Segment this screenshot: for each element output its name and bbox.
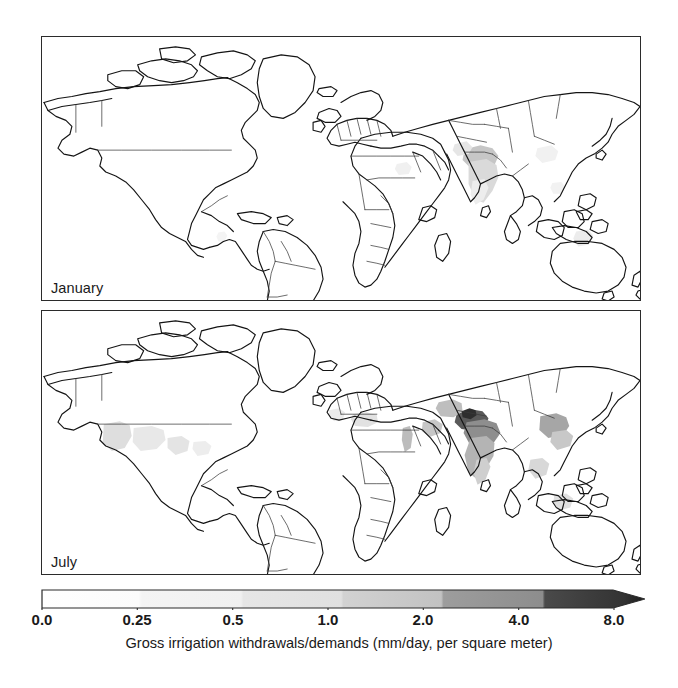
colorbar-tick-3: 1.0: [318, 612, 339, 627]
colorbar-body: [42, 590, 645, 608]
panel-label-january: January: [51, 281, 103, 296]
colorbar-caption: Gross irrigation withdrawals/demands (mm…: [0, 635, 678, 652]
colorbar-tick-0: 0.0: [32, 612, 53, 627]
colorbar-tick-4: 2.0: [413, 612, 434, 627]
map-panel-july: July: [41, 310, 641, 575]
colorbar-gradient-bar: [41, 588, 645, 610]
colorbar-tick-labels: 0.0 0.25 0.5 1.0 2.0 4.0 8.0: [0, 612, 678, 634]
map-panel-january: January: [41, 36, 641, 301]
colorbar-tick-5: 4.0: [509, 612, 530, 627]
colorbar-legend: 0.0 0.25 0.5 1.0 2.0 4.0 8.0 Gross irrig…: [0, 585, 678, 685]
panel-label-july: July: [51, 555, 77, 570]
data-patches-july: [103, 399, 573, 510]
colorbar-tick-1: 0.25: [122, 612, 151, 627]
world-map-july: [42, 311, 640, 574]
world-map-january: [42, 37, 640, 300]
colorbar-svg: [41, 588, 645, 610]
colorbar-tick-6: 8.0: [604, 612, 625, 627]
coastlines-july: [44, 321, 640, 574]
coastlines-january: [44, 47, 640, 300]
figure-container: January: [0, 0, 678, 688]
colorbar-tick-2: 0.5: [223, 612, 244, 627]
